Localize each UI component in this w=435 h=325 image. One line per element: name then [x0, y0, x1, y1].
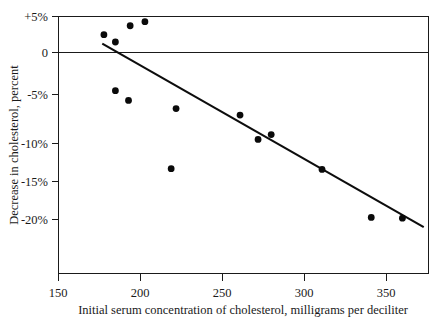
- x-axis-title: Initial serum concentration of cholester…: [78, 303, 409, 317]
- y-tick-label: -20%: [21, 213, 48, 227]
- data-point: [127, 22, 134, 29]
- data-point: [268, 131, 275, 138]
- y-axis-title: Decrease in cholesterol, percent: [7, 65, 21, 225]
- data-point: [237, 112, 244, 119]
- cholesterol-scatter-figure: +5% 0 -5% -10% -15% -20% 150 200 250 300…: [0, 0, 435, 325]
- x-tick-labels: 150 200 250 300 350: [49, 286, 396, 300]
- plot-frame: [58, 16, 428, 273]
- x-axis-ticks: [58, 273, 386, 281]
- x-tick-label: 200: [131, 286, 150, 300]
- chart-canvas: +5% 0 -5% -10% -15% -20% 150 200 250 300…: [0, 0, 435, 325]
- x-tick-label: 250: [213, 286, 232, 300]
- y-tick-label: -15%: [21, 175, 48, 189]
- data-point: [101, 31, 108, 38]
- x-tick-label: 350: [377, 286, 396, 300]
- regression-line-group: [102, 44, 423, 228]
- y-axis-ticks: [52, 16, 58, 219]
- y-tick-label: -10%: [21, 137, 48, 151]
- y-tick-label: 0: [42, 46, 48, 60]
- data-point: [255, 136, 262, 143]
- data-point: [319, 166, 326, 173]
- y-tick-label: +5%: [24, 10, 48, 24]
- data-point: [399, 215, 406, 222]
- x-tick-label: 300: [295, 286, 314, 300]
- regression-line: [102, 44, 423, 228]
- data-point: [112, 39, 119, 46]
- y-tick-labels: +5% 0 -5% -10% -15% -20%: [21, 10, 48, 227]
- data-point: [168, 165, 175, 172]
- x-tick-label: 150: [49, 286, 68, 300]
- data-point: [112, 87, 119, 94]
- y-tick-label: -5%: [27, 88, 48, 102]
- data-point: [125, 97, 132, 104]
- data-point: [368, 214, 375, 221]
- data-point: [142, 18, 149, 25]
- data-point: [173, 105, 180, 112]
